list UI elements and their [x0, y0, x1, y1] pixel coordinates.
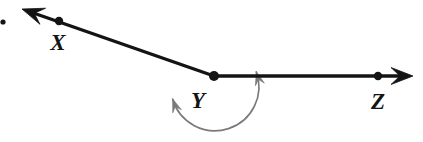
point-label-z: Z [370, 89, 385, 114]
reflex-angle-arc [173, 72, 259, 131]
point-label-y: Y [191, 88, 207, 113]
point-y-dot [209, 71, 219, 81]
point-x-dot [55, 17, 63, 25]
geometry-figure: X Y Z [0, 0, 423, 142]
angle-diagram-canvas: X Y Z [0, 0, 423, 142]
stray-speck [0, 19, 5, 24]
ray-y-to-z [214, 68, 413, 85]
point-label-x: X [49, 30, 66, 55]
arc-arrowhead-toward-ray-yz [255, 72, 264, 86]
point-z-dot [374, 72, 382, 80]
reflex-angle-arc-group [173, 72, 265, 131]
